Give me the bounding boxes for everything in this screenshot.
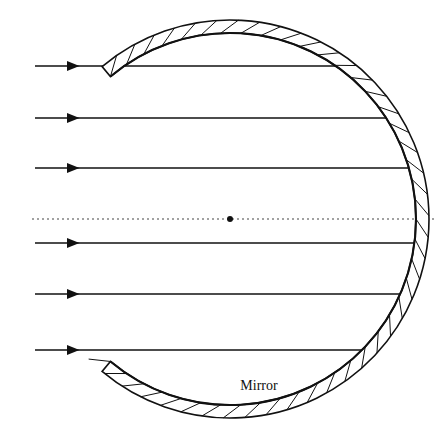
- mirror-hatch-mark: [89, 359, 111, 361]
- diagram-canvas: Mirror: [0, 0, 448, 447]
- incident-rays: [35, 61, 414, 355]
- ray-arrowhead-1: [67, 61, 80, 71]
- mirror-label: Mirror: [240, 378, 278, 393]
- optics-diagram: Mirror: [0, 0, 448, 447]
- mirror-arc-outline: [102, 20, 429, 418]
- ray-arrowhead-6: [67, 345, 80, 355]
- ray-arrowhead-2: [67, 113, 80, 123]
- ray-arrowhead-5: [67, 289, 80, 299]
- center-of-curvature-dot: [227, 216, 233, 222]
- ray-arrowhead-3: [67, 163, 80, 173]
- ray-arrowhead-4: [67, 238, 80, 248]
